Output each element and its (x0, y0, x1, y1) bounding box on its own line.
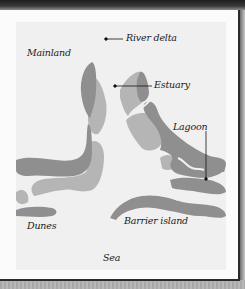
label-lagoon: Lagoon (173, 121, 207, 132)
label-sea: Sea (103, 252, 120, 263)
label-estuary: Estuary (154, 79, 190, 90)
label-mainland: Mainland (27, 47, 71, 58)
label-barrier-island: Barrier island (124, 215, 188, 226)
label-river-delta: River delta (126, 32, 177, 43)
medium-land-regions (16, 72, 178, 204)
map-shapes (0, 0, 245, 289)
label-dunes: Dunes (27, 220, 56, 231)
